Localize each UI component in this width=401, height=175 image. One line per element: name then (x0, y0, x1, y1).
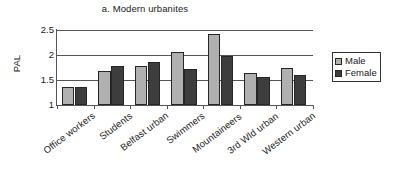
x-axis-labels: Office workersStudentsBelfast urbanSwimm… (0, 0, 401, 175)
legend-label: Female (345, 68, 377, 78)
legend-entry: Male (335, 55, 377, 67)
chart-figure: a. Modern urbanites 11.522.5 PAL Office … (0, 0, 401, 175)
chart-legend: MaleFemale (332, 52, 381, 82)
x-tick-mark (313, 105, 314, 109)
x-tick-mark (130, 105, 131, 109)
x-tick-mark (276, 105, 277, 109)
legend-entry: Female (335, 67, 377, 79)
x-tick-mark (240, 105, 241, 109)
legend-label: Male (345, 56, 366, 66)
x-axis-label: Office workers (41, 110, 97, 156)
legend-swatch-female (335, 70, 342, 77)
x-tick-mark (57, 105, 58, 109)
legend-swatch-male (335, 58, 342, 65)
x-tick-mark (167, 105, 168, 109)
x-tick-mark (94, 105, 95, 109)
x-tick-mark (203, 105, 204, 109)
